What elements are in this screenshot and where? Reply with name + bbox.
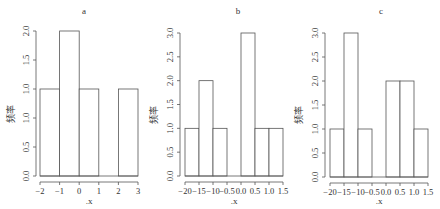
y-tick-label: 1.5 (310, 100, 320, 111)
histogram-bar (344, 33, 358, 177)
y-tick-label: 0.0 (21, 171, 31, 182)
y-tick-label: 0.5 (310, 148, 320, 159)
x-tick-label: −10 (351, 187, 364, 197)
x-tick-label: 1.0 (409, 187, 420, 197)
x-tick-label: 0 (77, 186, 81, 196)
y-tick-label: 1.5 (165, 99, 175, 110)
x-tick-label: −2 (35, 186, 44, 196)
x-tick-label: 1.5 (423, 187, 434, 197)
y-tick-label: 3.0 (165, 28, 175, 39)
y-tick-label: 2.5 (165, 52, 175, 63)
x-axis-label: .x (86, 196, 93, 206)
y-tick-label: 2.0 (310, 76, 320, 87)
y-axis-label: 频率 (5, 105, 16, 123)
y-axis-label: 频率 (293, 106, 304, 124)
x-tick-label: 1 (97, 186, 101, 196)
x-tick-label: 1.5 (278, 186, 289, 196)
y-tick-label: 2.0 (165, 75, 175, 86)
x-tick-label: 0.5 (250, 186, 261, 196)
y-tick-label: 1.0 (21, 113, 31, 124)
x-tick-label: 3 (136, 186, 140, 196)
y-tick-label: 1.0 (165, 123, 175, 134)
y-tick-label: 2.0 (21, 26, 31, 37)
histogram-bar (358, 129, 372, 177)
histogram-bar (40, 89, 60, 176)
histogram-bar (118, 89, 138, 176)
x-axis-label: .x (231, 196, 238, 206)
panel-a: a0.00.51.01.01.52.0频率−2−10123.x (5, 6, 140, 206)
y-tick-label: 0.5 (21, 142, 31, 153)
x-tick-label: −15 (337, 187, 350, 197)
x-axis-label: .x (376, 196, 383, 206)
panel-title: c (379, 6, 383, 16)
y-tick-label: 0.0 (165, 171, 175, 182)
y-tick-label: 1.0 (21, 84, 31, 95)
histogram-bar (79, 89, 99, 176)
x-tick-label: −15 (192, 186, 205, 196)
y-tick-label: 2.5 (310, 52, 320, 63)
x-tick-label: −10 (206, 186, 219, 196)
histogram-bar (255, 128, 269, 176)
panel-title: a (82, 6, 86, 16)
x-tick-label: −0.5 (219, 186, 234, 196)
y-axis-label: 频率 (148, 106, 159, 124)
histogram-figure: a0.00.51.01.01.52.0频率−2−10123.xb0.00.51.… (0, 0, 440, 209)
x-tick-label: 2 (116, 186, 120, 196)
histogram-bar (330, 129, 344, 177)
x-tick-label: 0.0 (236, 186, 247, 196)
histogram-bar (386, 81, 400, 177)
histogram-bar (241, 33, 255, 176)
y-tick-label: 0.5 (165, 147, 175, 158)
histogram-bar (414, 129, 428, 177)
y-tick-label: 0.0 (310, 172, 320, 183)
x-tick-label: −20 (323, 187, 336, 197)
x-tick-label: −1 (55, 186, 64, 196)
y-tick-label: 3.0 (310, 28, 320, 39)
y-tick-label: 1.5 (21, 55, 31, 66)
histogram-bar (400, 81, 414, 177)
x-tick-label: 1.0 (264, 186, 275, 196)
y-tick-label: 1.0 (310, 124, 320, 135)
histogram-bar (199, 81, 213, 176)
panel-title: b (236, 6, 241, 16)
histogram-bar (269, 128, 283, 176)
x-tick-label: −20 (178, 186, 191, 196)
histogram-bar (60, 31, 80, 176)
x-tick-label: 0.5 (395, 187, 406, 197)
histogram-bar (185, 128, 199, 176)
panel-c: c0.00.51.01.52.02.53.0频率−20−15−10−0.50.0… (293, 6, 433, 206)
panel-b: b0.00.51.01.52.02.53.0频率−20−15−10−0.50.0… (148, 6, 288, 206)
histogram-bar (213, 128, 227, 176)
